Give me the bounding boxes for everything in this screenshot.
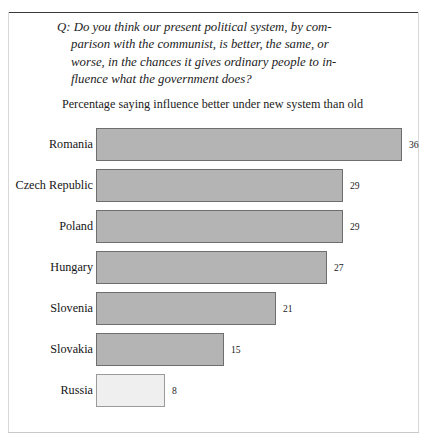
question-line: worse, in the chances it gives ordinary … xyxy=(57,54,367,71)
bar-row: Slovenia 21 xyxy=(0,292,425,333)
bar-row: Poland 29 xyxy=(0,210,425,251)
bar-chart-plot: Romania 36 Czech Republic 29 Poland 29 H… xyxy=(0,128,425,415)
bar-value-label: 8 xyxy=(172,374,177,407)
category-label: Hungary xyxy=(0,251,93,284)
bar xyxy=(96,128,402,161)
bar-row: Russia 8 xyxy=(0,374,425,415)
bar xyxy=(96,333,224,366)
bar-row: Hungary 27 xyxy=(0,251,425,292)
bar-value-label: 21 xyxy=(283,292,293,325)
category-label: Slovakia xyxy=(0,333,93,366)
question-line: fluence what the government does? xyxy=(57,71,367,88)
bar-row: Czech Republic 29 xyxy=(0,169,425,210)
bar-value-label: 29 xyxy=(350,210,360,243)
bar xyxy=(96,251,327,284)
category-label: Poland xyxy=(0,210,93,243)
category-label: Czech Republic xyxy=(0,169,93,202)
bar-row: Slovakia 15 xyxy=(0,333,425,374)
figure-frame-bottom-edge xyxy=(8,432,419,433)
question-text: Q: Do you think our present political sy… xyxy=(57,19,367,89)
bar-value-label: 27 xyxy=(334,251,344,284)
bar xyxy=(96,210,343,243)
category-label: Slovenia xyxy=(0,292,93,325)
bar-value-label: 29 xyxy=(350,169,360,202)
bar-value-label: 15 xyxy=(231,333,241,366)
bar xyxy=(96,169,343,202)
chart-figure: Q: Do you think our present political sy… xyxy=(0,0,425,442)
figure-frame-top-rule xyxy=(8,12,419,13)
question-line: parison with the communist, is better, t… xyxy=(57,36,367,53)
bar xyxy=(96,374,165,407)
bar-row: Romania 36 xyxy=(0,128,425,169)
category-label: Russia xyxy=(0,374,93,407)
category-label: Romania xyxy=(0,128,93,161)
chart-subtitle: Percentage saying influence better under… xyxy=(0,96,425,112)
bar-value-label: 36 xyxy=(409,128,419,161)
bar xyxy=(96,292,276,325)
question-line: Q: Do you think our present political sy… xyxy=(57,19,367,36)
